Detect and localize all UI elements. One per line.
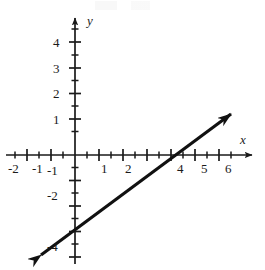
x-tick-label: 5 — [201, 162, 208, 175]
x-tick-label: 2 — [125, 162, 132, 175]
x-tick-label: 4 — [177, 162, 184, 175]
x-tick-label: -2 — [8, 162, 19, 175]
x-tick-label: 6 — [225, 162, 232, 175]
y-tick-label: 1 — [53, 113, 60, 126]
x-tick-label: 1 — [101, 162, 108, 175]
y-axis-label: y — [87, 14, 93, 27]
coordinate-plane-figure: -2 -1 1 2 4 5 6 4 3 2 1 -1 -2 -4 y x — [0, 0, 265, 270]
y-tick-label: 3 — [53, 62, 60, 75]
x-tick-label: -1 — [32, 162, 43, 175]
y-tick-label: 2 — [53, 87, 60, 100]
y-tick-label: -4 — [47, 240, 58, 253]
graph-canvas — [0, 0, 265, 270]
y-tick-label: -1 — [47, 164, 58, 177]
y-tick-label: 4 — [53, 36, 60, 49]
x-axis-label: x — [240, 133, 246, 146]
plotted-line — [41, 114, 231, 255]
y-tick-label: -2 — [47, 189, 58, 202]
cropped-text-artifact — [95, 1, 215, 10]
